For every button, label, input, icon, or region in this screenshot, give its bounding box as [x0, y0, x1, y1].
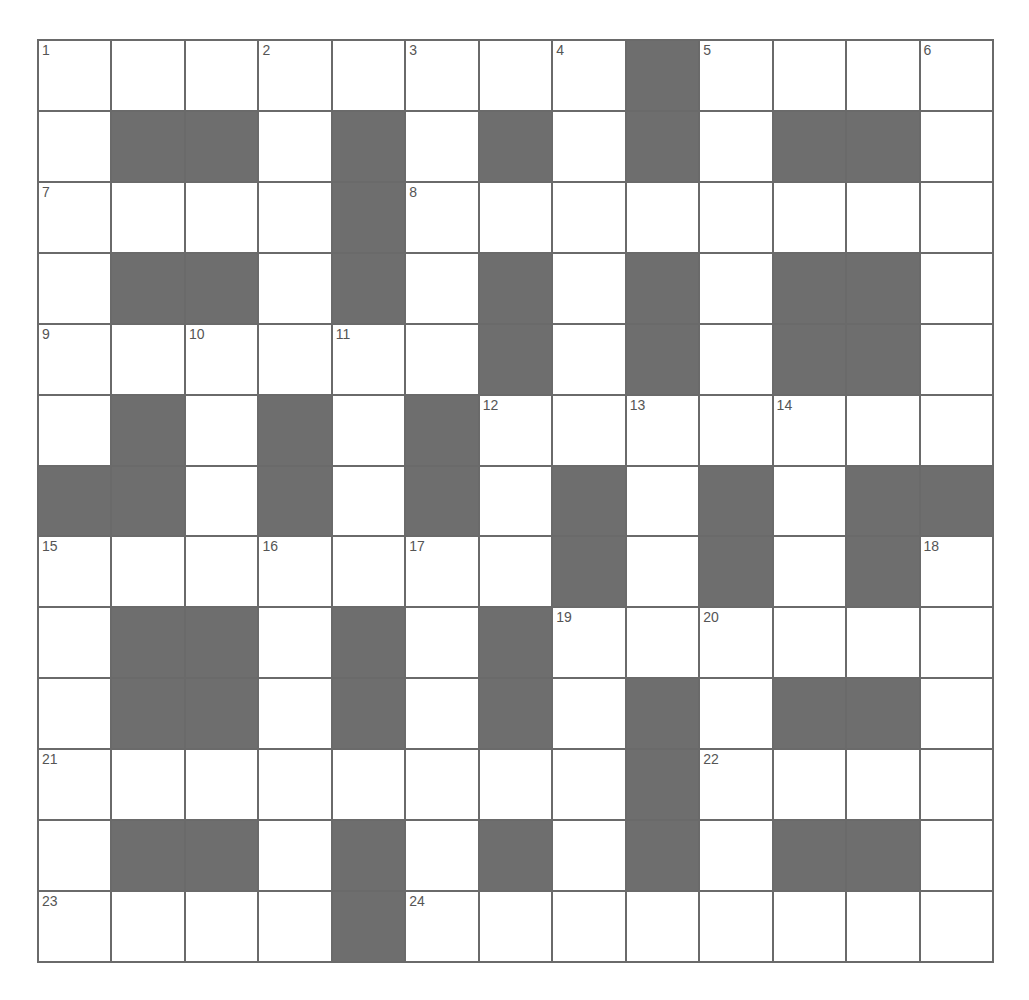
answer-cell[interactable]: 20 — [700, 608, 771, 677]
answer-cell[interactable] — [259, 254, 330, 323]
answer-cell[interactable]: 2 — [259, 41, 330, 110]
answer-cell[interactable] — [259, 183, 330, 252]
answer-cell[interactable] — [186, 892, 257, 961]
answer-cell[interactable]: 18 — [921, 537, 992, 606]
answer-cell[interactable] — [406, 325, 477, 394]
answer-cell[interactable]: 12 — [480, 396, 551, 465]
answer-cell[interactable]: 10 — [186, 325, 257, 394]
answer-cell[interactable]: 19 — [553, 608, 624, 677]
answer-cell[interactable] — [847, 183, 918, 252]
answer-cell[interactable] — [774, 467, 845, 536]
answer-cell[interactable] — [186, 183, 257, 252]
answer-cell[interactable] — [700, 396, 771, 465]
answer-cell[interactable] — [112, 750, 183, 819]
answer-cell[interactable]: 24 — [406, 892, 477, 961]
answer-cell[interactable] — [333, 750, 404, 819]
answer-cell[interactable]: 11 — [333, 325, 404, 394]
answer-cell[interactable] — [259, 608, 330, 677]
answer-cell[interactable] — [774, 750, 845, 819]
answer-cell[interactable] — [553, 183, 624, 252]
answer-cell[interactable] — [847, 608, 918, 677]
answer-cell[interactable] — [627, 183, 698, 252]
answer-cell[interactable] — [186, 537, 257, 606]
answer-cell[interactable]: 9 — [39, 325, 110, 394]
answer-cell[interactable] — [406, 679, 477, 748]
answer-cell[interactable]: 4 — [553, 41, 624, 110]
answer-cell[interactable] — [627, 467, 698, 536]
answer-cell[interactable] — [700, 254, 771, 323]
answer-cell[interactable] — [333, 41, 404, 110]
answer-cell[interactable] — [39, 679, 110, 748]
answer-cell[interactable] — [112, 892, 183, 961]
answer-cell[interactable] — [700, 325, 771, 394]
answer-cell[interactable] — [627, 537, 698, 606]
answer-cell[interactable]: 22 — [700, 750, 771, 819]
answer-cell[interactable] — [921, 183, 992, 252]
answer-cell[interactable]: 23 — [39, 892, 110, 961]
answer-cell[interactable] — [480, 750, 551, 819]
answer-cell[interactable]: 7 — [39, 183, 110, 252]
answer-cell[interactable] — [921, 112, 992, 181]
answer-cell[interactable] — [700, 183, 771, 252]
answer-cell[interactable]: 5 — [700, 41, 771, 110]
answer-cell[interactable] — [847, 750, 918, 819]
answer-cell[interactable] — [553, 254, 624, 323]
answer-cell[interactable] — [847, 41, 918, 110]
answer-cell[interactable]: 3 — [406, 41, 477, 110]
answer-cell[interactable]: 8 — [406, 183, 477, 252]
answer-cell[interactable] — [406, 608, 477, 677]
answer-cell[interactable] — [39, 254, 110, 323]
answer-cell[interactable] — [921, 608, 992, 677]
answer-cell[interactable] — [259, 112, 330, 181]
answer-cell[interactable] — [921, 325, 992, 394]
answer-cell[interactable] — [774, 608, 845, 677]
answer-cell[interactable] — [700, 821, 771, 890]
answer-cell[interactable] — [406, 750, 477, 819]
answer-cell[interactable] — [774, 537, 845, 606]
answer-cell[interactable] — [921, 750, 992, 819]
answer-cell[interactable] — [112, 41, 183, 110]
answer-cell[interactable]: 21 — [39, 750, 110, 819]
answer-cell[interactable] — [480, 467, 551, 536]
answer-cell[interactable] — [774, 892, 845, 961]
answer-cell[interactable] — [112, 183, 183, 252]
answer-cell[interactable] — [627, 608, 698, 677]
answer-cell[interactable] — [259, 892, 330, 961]
answer-cell[interactable]: 16 — [259, 537, 330, 606]
answer-cell[interactable] — [186, 750, 257, 819]
answer-cell[interactable] — [112, 537, 183, 606]
answer-cell[interactable]: 17 — [406, 537, 477, 606]
answer-cell[interactable] — [186, 467, 257, 536]
answer-cell[interactable] — [333, 396, 404, 465]
answer-cell[interactable] — [480, 183, 551, 252]
answer-cell[interactable] — [39, 396, 110, 465]
answer-cell[interactable] — [553, 112, 624, 181]
answer-cell[interactable] — [186, 41, 257, 110]
answer-cell[interactable] — [553, 679, 624, 748]
answer-cell[interactable]: 13 — [627, 396, 698, 465]
answer-cell[interactable] — [406, 821, 477, 890]
answer-cell[interactable] — [921, 396, 992, 465]
answer-cell[interactable] — [333, 537, 404, 606]
answer-cell[interactable] — [847, 892, 918, 961]
answer-cell[interactable] — [112, 325, 183, 394]
answer-cell[interactable] — [39, 608, 110, 677]
answer-cell[interactable]: 6 — [921, 41, 992, 110]
answer-cell[interactable] — [406, 112, 477, 181]
answer-cell[interactable] — [480, 41, 551, 110]
answer-cell[interactable] — [553, 821, 624, 890]
answer-cell[interactable] — [553, 892, 624, 961]
answer-cell[interactable] — [921, 892, 992, 961]
answer-cell[interactable] — [259, 325, 330, 394]
answer-cell[interactable] — [259, 821, 330, 890]
answer-cell[interactable] — [553, 325, 624, 394]
answer-cell[interactable] — [774, 183, 845, 252]
answer-cell[interactable] — [186, 396, 257, 465]
answer-cell[interactable] — [480, 892, 551, 961]
answer-cell[interactable] — [700, 892, 771, 961]
answer-cell[interactable] — [39, 821, 110, 890]
answer-cell[interactable] — [39, 112, 110, 181]
answer-cell[interactable] — [333, 467, 404, 536]
answer-cell[interactable] — [553, 750, 624, 819]
answer-cell[interactable] — [921, 679, 992, 748]
